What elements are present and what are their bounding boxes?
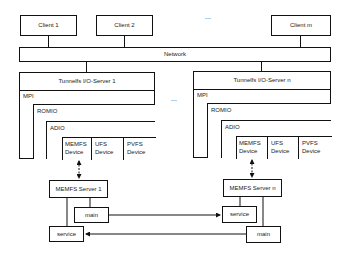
diagram-connectors (0, 0, 344, 256)
